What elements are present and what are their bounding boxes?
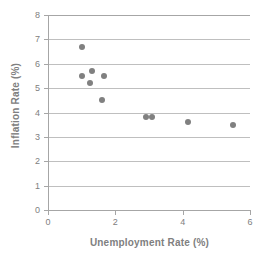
data-point: [87, 80, 93, 86]
y-tick-mark-8: [44, 15, 48, 16]
y-tick-mark-2: [44, 161, 48, 162]
x-axis-title: Unemployment Rate (%): [48, 237, 251, 248]
y-tick-label: 5: [10, 83, 40, 93]
y-tick-label: 4: [10, 108, 40, 118]
y-tick-label: 6: [10, 59, 40, 69]
plot-area: [48, 15, 250, 210]
gridline-y-8: [48, 15, 250, 16]
y-tick-label: 0: [10, 205, 40, 215]
y-tick-mark-6: [44, 64, 48, 65]
data-point: [143, 114, 149, 120]
data-point: [149, 114, 155, 120]
x-tick-label: 6: [238, 217, 262, 227]
y-tick-label: 3: [10, 132, 40, 142]
y-tick-mark-4: [44, 113, 48, 114]
y-tick-mark-5: [44, 88, 48, 89]
y-tick-mark-1: [44, 186, 48, 187]
x-tick-label: 0: [36, 217, 60, 227]
x-tick-mark-6: [250, 211, 251, 215]
x-tick-mark-2: [115, 211, 116, 215]
gridline-y-3: [48, 137, 250, 138]
data-point: [89, 68, 95, 74]
data-point: [230, 122, 236, 128]
gridline-y-4: [48, 113, 250, 114]
gridline-y-1: [48, 186, 250, 187]
data-point: [79, 73, 85, 79]
y-axis-title: Inflation Rate (%): [10, 36, 21, 176]
y-tick-label: 8: [10, 10, 40, 20]
data-point: [101, 73, 107, 79]
data-point: [79, 44, 85, 50]
y-tick-label: 7: [10, 34, 40, 44]
y-tick-mark-7: [44, 39, 48, 40]
y-tick-label: 2: [10, 156, 40, 166]
x-tick-mark-4: [183, 211, 184, 215]
data-point: [185, 119, 191, 125]
gridline-y-5: [48, 88, 250, 89]
y-tick-label: 1: [10, 181, 40, 191]
gridline-y-7: [48, 39, 250, 40]
y-tick-mark-3: [44, 137, 48, 138]
gridline-y-6: [48, 64, 250, 65]
gridline-y-2: [48, 161, 250, 162]
data-point: [99, 97, 105, 103]
x-tick-label: 4: [171, 217, 195, 227]
x-tick-mark-0: [48, 211, 49, 215]
scatter-chart: Inflation Rate (%) Unemployment Rate (%)…: [0, 0, 265, 262]
y-axis-line: [48, 15, 49, 211]
x-tick-label: 2: [103, 217, 127, 227]
x-axis-line: [48, 210, 251, 211]
